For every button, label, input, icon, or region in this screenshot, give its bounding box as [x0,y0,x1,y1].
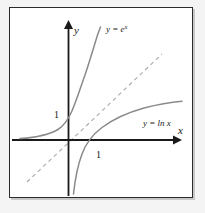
plot-canvas: y x 1 1 y = ex y = ln x [10,8,191,196]
figure-root: y x 1 1 y = ex y = ln x [0,0,205,213]
y-axis-arrow-icon [64,20,73,29]
exponential-curve-label-text: y = e [105,24,125,34]
identity-line-dashed [27,54,162,182]
x-axis-tick-label-1: 1 [96,149,101,160]
exponential-curve-label: y = ex [105,23,128,35]
figure-frame: y x 1 1 y = ex y = ln x [9,7,193,198]
exponential-curve [20,27,101,139]
exponential-curve-label-exponent: x [124,23,128,30]
y-axis-tick-label-1: 1 [54,109,59,120]
y-axis-label: y [73,24,79,36]
x-axis-arrow-icon [173,136,182,145]
logarithm-curve [74,101,183,194]
logarithm-curve-label: y = ln x [142,118,171,128]
x-axis-label: x [177,124,183,136]
